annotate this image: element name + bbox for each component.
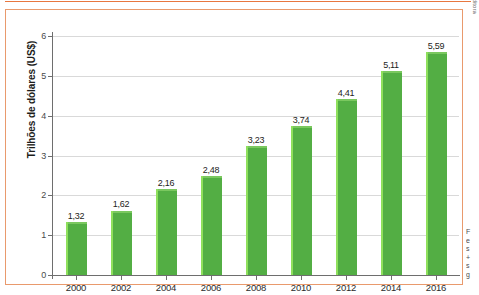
- top-rule-divider: [5, 1, 471, 2]
- x-axis-label-2000: 2000: [66, 282, 86, 293]
- x-axis-label-2006: 2006: [201, 282, 221, 293]
- bar-2016[interactable]: [426, 52, 447, 275]
- bar-value-2000: 1,32: [68, 211, 84, 221]
- x-axis-label-2004: 2004: [156, 282, 176, 293]
- bar-cap: [68, 222, 87, 224]
- bar-value-2008: 3,23: [248, 135, 264, 145]
- caption-fragment: F e s + s g: [466, 228, 479, 279]
- y-axis-title: Trilhões de dólares (US$): [26, 25, 37, 175]
- x-axis-label-2008: 2008: [246, 282, 266, 293]
- x-tick-mark-2000: [76, 276, 77, 280]
- x-tick-mark-2004: [166, 276, 167, 280]
- bar-value-2002: 1,62: [113, 199, 129, 209]
- figure-frame: Trilhões de dólares (US$) 6 5 4 3 2 1 0: [5, 9, 463, 285]
- bar-cap: [293, 126, 312, 128]
- bar-2014[interactable]: [381, 71, 402, 275]
- bar-cap: [203, 176, 222, 178]
- bar-2002[interactable]: [111, 211, 132, 276]
- x-axis-label-2002: 2002: [111, 282, 131, 293]
- bar-cap: [248, 146, 267, 148]
- bar-value-2010: 3,74: [293, 115, 309, 125]
- caption-fragment-line: s: [466, 262, 479, 271]
- bar-cap: [338, 99, 357, 101]
- x-tick-mark-2002: [121, 276, 122, 280]
- x-tick-mark-2008: [256, 276, 257, 280]
- y-tick-label-0: 0: [41, 270, 46, 280]
- x-tick-mark-2010: [301, 276, 302, 280]
- y-tick-label-3: 3: [41, 151, 46, 161]
- bar-cap: [383, 71, 402, 73]
- caption-fragment-line: g: [466, 271, 479, 280]
- gridline-6: [53, 36, 459, 37]
- y-tick-label-5: 5: [41, 71, 46, 81]
- bar-cap: [113, 211, 132, 213]
- bar-value-2014: 5,11: [383, 60, 399, 70]
- y-tick-label-4: 4: [41, 111, 46, 121]
- x-axis-label-2014: 2014: [381, 282, 401, 293]
- caption-fragment-line: s: [466, 245, 479, 254]
- bar-value-2012: 4,41: [338, 88, 354, 98]
- y-tick-label-1: 1: [41, 230, 46, 240]
- bar-2000[interactable]: [66, 222, 87, 275]
- bar-2012[interactable]: [336, 99, 357, 275]
- bar-cap: [428, 52, 447, 54]
- bar-2008[interactable]: [246, 146, 267, 275]
- image-credit: Luiz Fernando Rubio/Arquivo da editora: [472, 0, 478, 14]
- y-tick-label-2: 2: [41, 190, 46, 200]
- bar-value-2004: 2,16: [158, 178, 174, 188]
- x-tick-mark-2014: [391, 276, 392, 280]
- bar-value-2006: 2,48: [203, 165, 219, 175]
- plot-area: [53, 36, 459, 275]
- bar-2010[interactable]: [291, 126, 312, 275]
- y-tick-label-6: 6: [41, 31, 46, 41]
- x-tick-mark-2012: [346, 276, 347, 280]
- chart-page: Trilhões de dólares (US$) 6 5 4 3 2 1 0: [0, 0, 479, 295]
- x-axis-label-2010: 2010: [291, 282, 311, 293]
- bar-2004[interactable]: [156, 189, 177, 275]
- bar-2006[interactable]: [201, 176, 222, 275]
- bar-value-2016: 5,59: [428, 41, 444, 51]
- x-tick-mark-2016: [436, 276, 437, 280]
- caption-fragment-line: F: [466, 228, 479, 237]
- caption-fragment-line: +: [466, 254, 479, 263]
- x-axis-label-2012: 2012: [336, 282, 356, 293]
- x-tick-mark-2006: [211, 276, 212, 280]
- caption-fragment-line: e: [466, 237, 479, 246]
- bar-cap: [158, 189, 177, 191]
- x-axis-label-2016: 2016: [426, 282, 446, 293]
